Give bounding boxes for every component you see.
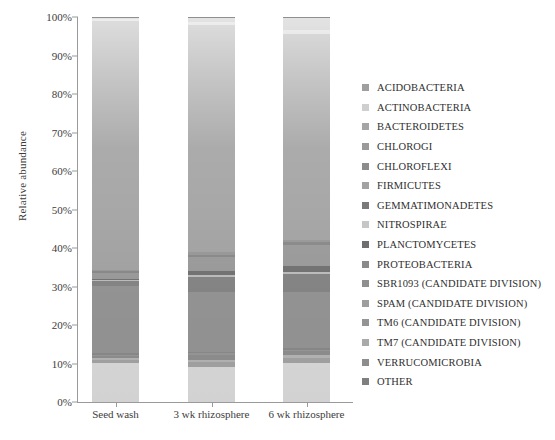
bar-top-rule: [92, 17, 139, 18]
bar-segment[interactable]: [283, 34, 330, 240]
bar-segment[interactable]: [188, 367, 235, 402]
legend-item-label: SBR1093 (CANDIDATE DIVISION): [377, 278, 541, 289]
legend-swatch-icon: [362, 241, 369, 248]
bar-segment[interactable]: [188, 257, 235, 271]
x-tick-mark: [212, 402, 213, 407]
legend-item[interactable]: FIRMICUTES: [362, 176, 552, 196]
y-tick-mark: [72, 94, 78, 95]
legend-item[interactable]: TM6 (CANDIDATE DIVISION): [362, 313, 552, 333]
legend-item[interactable]: PLANCTOMYCETES: [362, 235, 552, 255]
bar-segment[interactable]: [283, 292, 330, 348]
bar-segment[interactable]: [92, 21, 139, 269]
y-tick-mark: [72, 363, 78, 364]
bar-segment[interactable]: [92, 286, 139, 353]
legend-swatch-icon: [362, 261, 369, 268]
legend-item-label: TM6 (CANDIDATE DIVISION): [377, 317, 521, 328]
bar-segment[interactable]: [188, 277, 235, 292]
legend-item-label: OTHER: [377, 376, 413, 387]
legend-item-label: SPAM (CANDIDATE DIVISION): [377, 298, 527, 309]
y-tick-mark: [72, 171, 78, 172]
legend-item-label: PROTEOBACTERIA: [377, 259, 472, 270]
legend-item[interactable]: CHLOROFLEXI: [362, 156, 552, 176]
legend-item[interactable]: VERRUCOMICROBIA: [362, 352, 552, 372]
bar-segment[interactable]: [283, 17, 330, 30]
legend-item[interactable]: OTHER: [362, 372, 552, 392]
legend-swatch-icon: [362, 339, 369, 346]
legend-swatch-icon: [362, 104, 369, 111]
y-tick-mark: [72, 248, 78, 249]
legend-item[interactable]: SBR1093 (CANDIDATE DIVISION): [362, 274, 552, 294]
bar-segment[interactable]: [188, 292, 235, 352]
legend-item-label: ACTINOBACTERIA: [377, 102, 471, 113]
legend-item-label: BACTEROIDETES: [377, 121, 464, 132]
legend-swatch-icon: [362, 280, 369, 287]
legend-swatch-icon: [362, 202, 369, 209]
stacked-bar[interactable]: [92, 17, 139, 402]
legend-item-label: FIRMICUTES: [377, 180, 441, 191]
y-tick-mark: [72, 286, 78, 287]
legend-swatch-icon: [362, 300, 369, 307]
legend-item[interactable]: SPAM (CANDIDATE DIVISION): [362, 294, 552, 314]
legend-swatch-icon: [362, 143, 369, 150]
legend-swatch-icon: [362, 123, 369, 130]
legend-item-label: CHLOROFLEXI: [377, 161, 452, 172]
legend-item[interactable]: ACTINOBACTERIA: [362, 98, 552, 118]
legend-item-label: ACIDOBACTERIA: [377, 82, 465, 93]
stacked-bar[interactable]: [283, 17, 330, 402]
legend-item[interactable]: CHLOROGI: [362, 137, 552, 157]
legend-item-label: TM7 (CANDIDATE DIVISION): [377, 337, 521, 348]
y-tick-mark: [72, 17, 78, 18]
x-axis-label: 6 wk rhizosphere: [237, 408, 377, 420]
bar-segment[interactable]: [283, 363, 330, 402]
legend-item[interactable]: NITROSPIRAE: [362, 215, 552, 235]
y-tick-mark: [72, 325, 78, 326]
y-tick-mark: [72, 402, 78, 403]
stacked-bar[interactable]: [188, 17, 235, 402]
legend-item-label: NITROSPIRAE: [377, 219, 447, 230]
bar-segment[interactable]: [188, 25, 235, 252]
legend-swatch-icon: [362, 163, 369, 170]
legend-swatch-icon: [362, 84, 369, 91]
bar-segment[interactable]: [283, 245, 330, 267]
legend-swatch-icon: [362, 319, 369, 326]
legend-swatch-icon: [362, 182, 369, 189]
legend-swatch-icon: [362, 378, 369, 385]
legend-item-label: PLANCTOMYCETES: [377, 239, 476, 250]
chart-root: Relative abundance 100%90%80%70%60%50%40…: [0, 0, 555, 440]
legend-item-label: CHLOROGI: [377, 141, 432, 152]
legend-item-label: VERRUCOMICROBIA: [377, 357, 482, 368]
legend-item[interactable]: GEMMATIMONADETES: [362, 196, 552, 216]
bar-segment[interactable]: [283, 274, 330, 292]
y-tick-mark: [72, 209, 78, 210]
y-tick-mark: [72, 132, 78, 133]
legend-item[interactable]: BACTEROIDETES: [362, 117, 552, 137]
x-tick-mark: [116, 402, 117, 407]
bar-top-rule: [188, 17, 235, 18]
legend-item-label: GEMMATIMONADETES: [377, 200, 493, 211]
chart-legend: ACIDOBACTERIAACTINOBACTERIABACTEROIDETES…: [362, 78, 552, 392]
legend-item[interactable]: ACIDOBACTERIA: [362, 78, 552, 98]
legend-swatch-icon: [362, 359, 369, 366]
bar-segment[interactable]: [92, 363, 139, 402]
legend-item[interactable]: TM7 (CANDIDATE DIVISION): [362, 333, 552, 353]
bar-top-rule: [283, 17, 330, 18]
legend-item[interactable]: PROTEOBACTERIA: [362, 254, 552, 274]
x-tick-mark: [307, 402, 308, 407]
legend-swatch-icon: [362, 221, 369, 228]
y-tick-mark: [72, 55, 78, 56]
